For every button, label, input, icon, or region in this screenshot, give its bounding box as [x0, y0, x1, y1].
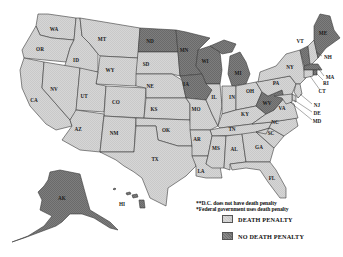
label-ky: KY	[241, 111, 249, 117]
label-mi: MI	[235, 70, 242, 76]
label-nh: NH	[324, 54, 332, 60]
label-mt: MT	[98, 36, 107, 42]
label-or: OR	[36, 46, 44, 52]
state-ct[interactable]	[304, 70, 313, 78]
label-mo: MO	[192, 106, 201, 112]
state-hi-4[interactable]	[139, 200, 145, 208]
leader-ri	[316, 73, 323, 80]
state-fl[interactable]	[230, 162, 286, 198]
label-tn: TN	[228, 126, 235, 132]
legend-swatch-dark	[222, 232, 233, 240]
note-federal: *Federal government uses death penalty	[196, 206, 289, 212]
state-wy[interactable]	[96, 56, 138, 86]
label-nd: ND	[146, 38, 154, 44]
label-sc: SC	[268, 130, 275, 136]
label-az: AZ	[74, 126, 82, 132]
label-nj: NJ	[314, 102, 321, 108]
label-hi: HI	[119, 201, 125, 207]
state-hi-2[interactable]	[126, 192, 131, 195]
state-ak[interactable]	[12, 170, 118, 242]
label-ga: GA	[255, 144, 263, 150]
label-tx: TX	[151, 156, 158, 162]
label-wa: WA	[50, 26, 59, 32]
state-me[interactable]	[314, 14, 340, 58]
legend-label: DEATH PENALTY	[238, 216, 293, 223]
state-nd[interactable]	[138, 28, 178, 52]
label-ms: MS	[212, 145, 220, 151]
label-la: LA	[197, 168, 204, 174]
label-vt: VT	[296, 38, 304, 44]
label-sd: SD	[143, 61, 150, 67]
label-ok: OK	[162, 127, 170, 133]
label-ar: AR	[193, 136, 201, 142]
legend-label: NO DEATH PENALTY	[238, 233, 304, 240]
label-mn: MN	[180, 47, 189, 53]
state-ri[interactable]	[313, 70, 317, 75]
label-wi: WI	[201, 58, 208, 64]
label-ak: AK	[58, 195, 66, 201]
label-de: DE	[313, 110, 321, 116]
label-wv: WV	[263, 100, 272, 106]
label-ia: IA	[183, 81, 189, 87]
label-va: VA	[279, 105, 286, 111]
legend-item-death-penalty: DEATH PENALTY	[222, 215, 293, 223]
label-nm: NM	[110, 130, 119, 136]
state-in[interactable]	[222, 86, 236, 114]
label-ut: UT	[80, 93, 88, 99]
label-fl: FL	[269, 175, 276, 181]
state-hi-1[interactable]	[113, 188, 116, 190]
state-mi[interactable]	[228, 52, 250, 86]
label-al: AL	[230, 146, 238, 152]
label-co: CO	[112, 99, 120, 105]
state-hi-3[interactable]	[132, 194, 138, 198]
state-co[interactable]	[104, 86, 146, 118]
label-ct: CT	[318, 88, 326, 94]
legend-item-no-death-penalty: NO DEATH PENALTY	[222, 232, 304, 240]
label-id: ID	[73, 57, 79, 63]
label-pa: PA	[273, 80, 280, 86]
label-wy: WY	[106, 67, 115, 73]
label-ne: NE	[146, 83, 154, 89]
leader-nj	[300, 94, 312, 104]
label-oh: OH	[246, 88, 254, 94]
label-ca: CA	[30, 97, 38, 103]
legend-swatch-light	[222, 215, 233, 223]
label-ks: KS	[151, 106, 158, 112]
label-in: IN	[229, 94, 235, 100]
label-il: IL	[211, 94, 217, 100]
label-nc: NC	[271, 119, 279, 125]
label-ny: NY	[286, 64, 294, 70]
label-md: MD	[313, 118, 322, 124]
label-me: ME	[319, 30, 328, 36]
label-nv: NV	[50, 86, 58, 92]
label-ri: RI	[323, 80, 329, 86]
